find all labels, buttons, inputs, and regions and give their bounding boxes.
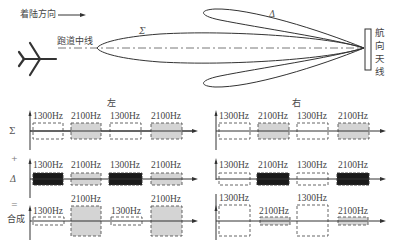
localizer-antenna-label: 航 向 天 线 [374,26,386,78]
freq-label: 2100Hz [259,207,289,217]
sum-pattern-label: Σ [139,27,145,36]
diff-lobe-lower [204,48,364,87]
freq-label: 2100Hz [71,195,101,205]
freq-label: 2100Hz [338,112,368,122]
landing-direction-arrow [58,13,86,17]
diff-lobe-upper [204,9,364,48]
freq-label: 1300Hz [110,112,140,122]
freq-label: 1300Hz [33,161,63,171]
freq-label: 2100Hz [71,112,101,122]
right-panel-title: 右 [292,99,301,108]
freq-label: 1300Hz [219,112,249,122]
freq-label: 1300Hz [219,194,249,204]
localizer-antenna [365,29,371,70]
freq-label: 1300Hz [219,161,249,171]
row-label-diff: Δ [10,175,17,184]
landing-direction-label: 着陆方向 [20,10,56,19]
freq-label: 1300Hz [297,194,327,204]
row-label-sum: Σ [9,127,15,136]
row-label-combined: 合成 [7,215,25,224]
diff-pattern-label: Δ [269,10,276,19]
right-panel [215,110,387,240]
aircraft-icon [19,43,56,75]
freq-label: 1300Hz [297,161,327,171]
freq-label: 2100Hz [151,161,181,171]
freq-label: 2100Hz [151,195,181,205]
freq-label: 2100Hz [151,112,181,122]
freq-label: 2100Hz [338,161,368,171]
freq-label: 2100Hz [258,161,288,171]
freq-label: 1300Hz [33,207,63,217]
freq-label: 2100Hz [71,161,101,171]
row-label-equals: = [11,201,18,209]
freq-label: 2100Hz [338,207,368,217]
row-label-plus: + [11,155,18,163]
freq-label: 1300Hz [33,112,63,122]
left-panel [29,110,199,240]
freq-label: 1300Hz [110,161,140,171]
runway-centerline-label: 跑道中线 [57,37,93,46]
freq-label: 1300Hz [297,112,327,122]
freq-label: 1300Hz [111,207,141,217]
freq-label: 2100Hz [258,112,288,122]
left-panel-title: 左 [107,99,116,108]
